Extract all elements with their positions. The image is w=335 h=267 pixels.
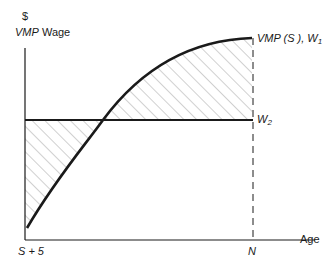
w1-label: W1 xyxy=(307,32,322,44)
x-axis-start-tick-label: S + 5 xyxy=(18,246,44,257)
y-axis-label-wage: Wage xyxy=(42,26,70,38)
x-axis-label: Age xyxy=(300,234,320,245)
y-axis-label: VMP Wage xyxy=(15,27,70,38)
y-axis-label-vmp: VMP xyxy=(15,26,39,38)
vmp-label-text: VMP (S ), xyxy=(257,32,304,44)
vmp-curve-label: VMP (S ), W1 xyxy=(257,33,322,46)
x-axis-end-tick-label: N xyxy=(248,246,256,257)
y-axis-unit-label: $ xyxy=(22,11,28,22)
w2-label: W2 xyxy=(257,114,272,127)
hatched-area-right xyxy=(100,30,260,125)
